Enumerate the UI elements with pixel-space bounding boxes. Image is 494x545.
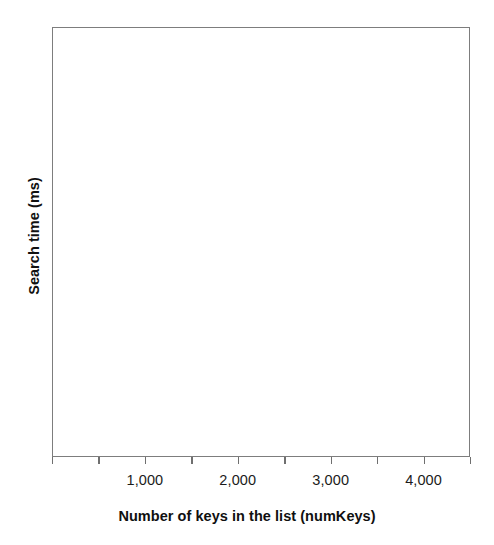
plot-area	[53, 28, 469, 456]
x-axis-tick-label: 3,000	[312, 472, 349, 488]
x-axis-tick	[470, 457, 471, 464]
x-axis-tick	[377, 457, 378, 464]
x-axis-tick-labels: 1,0002,0003,0004,000	[0, 472, 494, 496]
x-axis-tick	[145, 457, 146, 464]
x-axis-tick	[52, 457, 53, 464]
x-axis-tick-label: 1,000	[126, 472, 163, 488]
x-axis-title: Number of keys in the list (numKeys)	[0, 508, 494, 524]
x-axis-tick-label: 4,000	[405, 472, 442, 488]
x-axis-tick	[238, 457, 239, 464]
x-axis-tick-marks	[52, 457, 470, 467]
x-axis-tick	[331, 457, 332, 464]
plot-frame	[52, 27, 470, 457]
x-axis-tick-label: 2,000	[219, 472, 256, 488]
x-axis-tick	[98, 457, 99, 464]
y-axis-title: Search time (ms)	[26, 228, 42, 244]
x-axis-tick	[284, 457, 285, 464]
chart-figure: 1,0002,0003,0004,000 Number of keys in t…	[0, 0, 494, 545]
x-axis-tick	[424, 457, 425, 464]
x-axis-tick	[191, 457, 192, 464]
